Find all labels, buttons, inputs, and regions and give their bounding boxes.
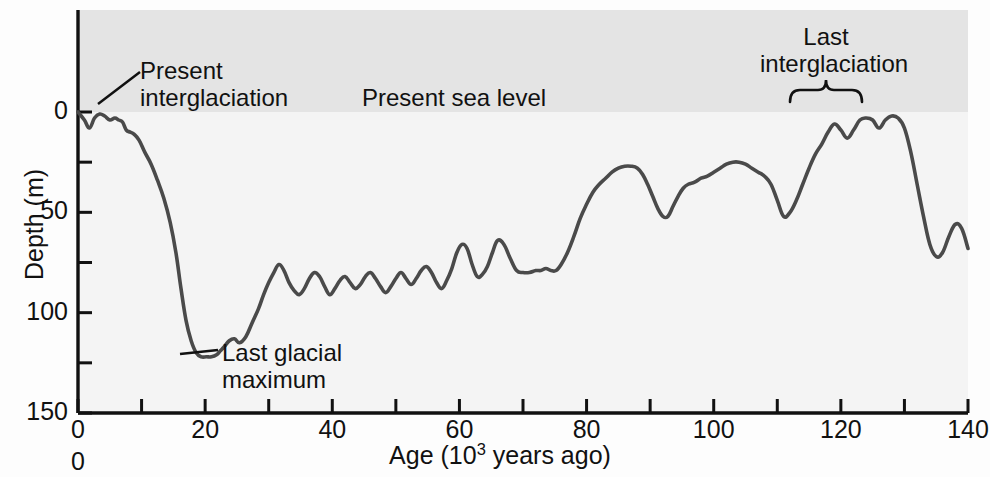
y-tick-label: 100: [0, 297, 68, 326]
annotation-present-sea-level: Present sea level: [362, 85, 546, 112]
sea-level-figure: Depth (m) Age (103 years ago) Present in…: [0, 0, 990, 477]
x-axis-origin-second-label: 0: [48, 447, 108, 476]
x-tick-label: 140: [938, 415, 990, 444]
x-axis-title-suffix: years ago): [486, 441, 611, 469]
x-tick-label: 20: [175, 415, 235, 444]
x-tick-label: 60: [429, 415, 489, 444]
y-tick-label: 50: [0, 196, 68, 225]
x-tick-label: 120: [811, 415, 871, 444]
x-axis-title: Age (103 years ago): [360, 440, 640, 470]
x-tick-label: 40: [302, 415, 362, 444]
annotation-last-glacial-maximum: Last glacial maximum: [222, 340, 342, 394]
y-tick-label: 0: [0, 96, 68, 125]
x-tick-label: 80: [557, 415, 617, 444]
x-axis-title-prefix: Age (10: [389, 441, 477, 469]
annotation-present-interglaciation: Present interglaciation: [140, 58, 288, 112]
annotation-last-interglaciation: Last interglaciation: [760, 24, 892, 78]
x-tick-label: 100: [684, 415, 744, 444]
x-tick-label: 0: [48, 415, 108, 444]
